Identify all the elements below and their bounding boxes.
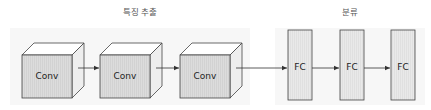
- fc-block-3: [391, 30, 415, 100]
- conv-cube-2: [100, 43, 162, 98]
- feature-extraction-label: 특징 추출: [100, 5, 180, 17]
- conv-cube-1: [22, 43, 84, 98]
- fc-block-2: [340, 30, 364, 100]
- fc-block-1: [288, 30, 312, 100]
- classification-label: 분류: [320, 5, 380, 17]
- conv-cube-3: [180, 43, 242, 98]
- cnn-architecture-diagram: 특징 추출 분류 Conv Conv Conv FC FC FC: [0, 0, 431, 110]
